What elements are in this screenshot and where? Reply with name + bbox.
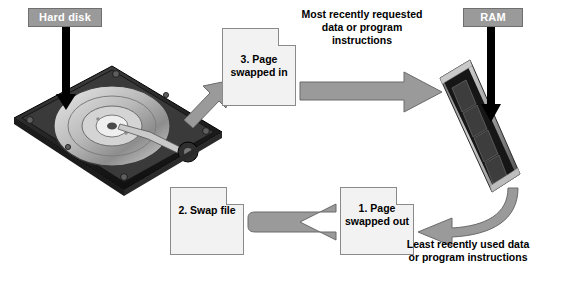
document-swap-file: 2. Swap file [170,187,244,255]
diagram-canvas: Hard disk RAM 3. Page swapped in 2. Swap… [0,0,571,285]
document-page-swapped-in: 3. Page swapped in [222,28,296,106]
page-fold-icon [226,187,244,205]
ram-label: RAM [463,8,523,27]
document-swap-file-label: 2. Swap file [171,204,243,217]
ram-image [440,60,520,192]
annotation-least-recently-used: Least recently used data or program inst… [404,238,532,264]
annotation-most-recently-requested: Most recently requested data or program … [300,8,424,47]
arrow-page-out-to-swap-file [248,204,336,240]
arrow-page-in-to-ram [300,72,442,112]
pointer-arrow-ram [481,26,501,122]
document-page-swapped-out-label: 1. Page swapped out [341,202,413,227]
document-page-swapped-out: 1. Page swapped out [340,187,414,255]
pointer-arrow-hard-disk [56,26,76,110]
hard-disk-image [14,66,222,196]
hard-disk-label: Hard disk [28,8,102,27]
document-page-swapped-in-label: 3. Page swapped in [223,53,295,78]
page-fold-icon [278,28,296,46]
